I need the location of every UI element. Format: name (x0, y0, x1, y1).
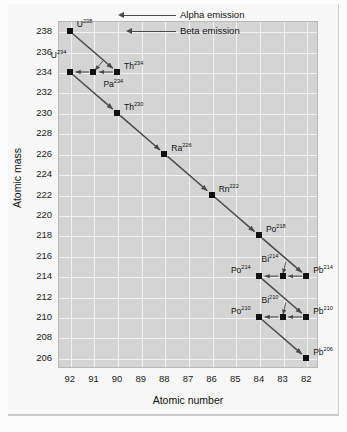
point-label-po210: Po210 (231, 306, 251, 315)
transition-alpha-po210-to-pb206 (262, 320, 302, 354)
y-tick-212: 212 (36, 292, 52, 302)
data-point-po210 (256, 314, 262, 320)
x-tick-89: 89 (135, 374, 146, 384)
point-label-ra226: Ra226 (171, 143, 191, 152)
y-tick-228: 228 (36, 129, 52, 139)
legend-item-alpha: Alpha emission (118, 8, 258, 24)
data-point-u234 (67, 69, 73, 75)
transition-alpha-ra226-to-rn222 (168, 156, 208, 190)
data-point-pb214 (303, 273, 309, 279)
data-point-po214 (256, 273, 262, 279)
y-tick-230: 230 (36, 108, 52, 118)
y-tick-216: 216 (36, 251, 52, 261)
point-label-bi214: Bi214 (262, 254, 279, 263)
x-tick-83: 83 (277, 374, 288, 384)
x-tick-84: 84 (254, 374, 265, 384)
x-tick-82: 82 (301, 374, 312, 384)
x-tick-85: 85 (230, 374, 241, 384)
y-tick-224: 224 (36, 169, 52, 179)
legend: Alpha emission Beta emission (118, 8, 258, 40)
y-tick-220: 220 (36, 210, 52, 220)
y-tick-210: 210 (36, 312, 52, 322)
x-tick-92: 92 (65, 374, 76, 384)
y-tick-218: 218 (36, 231, 52, 241)
point-label-u234: U234 (51, 50, 66, 59)
y-tick-206: 206 (36, 353, 52, 363)
point-label-po214: Po214 (231, 265, 251, 274)
point-label-th234: Th234 (124, 61, 143, 70)
y-tick-214: 214 (36, 271, 52, 281)
leader-line-bi210 (283, 303, 286, 315)
y-tick-236: 236 (36, 47, 52, 57)
legend-label-alpha: Alpha emission (180, 9, 244, 20)
point-label-po218: Po218 (266, 224, 286, 233)
y-tick-226: 226 (36, 149, 52, 159)
data-point-th234 (114, 69, 120, 75)
legend-label-beta: Beta emission (180, 25, 240, 36)
point-label-pb214: Pb214 (313, 265, 333, 274)
y-tick-222: 222 (36, 190, 52, 200)
x-axis-title: Atomic number (58, 394, 318, 406)
y-axis-title: Atomic mass (11, 113, 23, 243)
data-point-po218 (256, 232, 262, 238)
data-point-pb210 (303, 314, 309, 320)
transition-alpha-th230-to-ra226 (120, 116, 160, 150)
point-label-rn222: Rn222 (219, 184, 239, 193)
point-label-pa234: Pa234 (103, 79, 123, 88)
data-point-bi210 (280, 314, 286, 320)
beta-arrow-line (130, 31, 176, 32)
decay-series-figure: 2382362342322302282262242222202182162142… (0, 0, 347, 432)
x-tick-87: 87 (183, 374, 194, 384)
y-axis-tick-labels: 2382362342322302282262242222202182162142… (0, 21, 52, 368)
x-tick-88: 88 (159, 374, 170, 384)
x-tick-91: 91 (88, 374, 99, 384)
x-tick-90: 90 (112, 374, 123, 384)
data-point-ra226 (161, 151, 167, 157)
alpha-arrow-head (118, 12, 124, 18)
legend-item-beta: Beta emission (118, 24, 258, 40)
x-tick-86: 86 (206, 374, 217, 384)
data-point-pb206 (303, 355, 309, 361)
plot-area-wrapper: U238Th234Pa234U234Th230Ra226Rn222Po218Pb… (58, 21, 318, 368)
data-point-bi214 (280, 273, 286, 279)
y-tick-232: 232 (36, 88, 52, 98)
data-point-pa234 (90, 69, 96, 75)
point-label-pb210: Pb210 (313, 306, 333, 315)
y-tick-208: 208 (36, 333, 52, 343)
y-tick-234: 234 (36, 67, 52, 77)
transition-alpha-u238-to-th234 (73, 34, 113, 68)
data-point-rn222 (209, 192, 215, 198)
x-axis-tick-labels: 9291908988878685848382 (58, 374, 318, 388)
alpha-arrow-line (122, 15, 176, 16)
point-label-th230: Th230 (124, 102, 143, 111)
y-tick-238: 238 (36, 26, 52, 36)
point-label-u238: U238 (77, 19, 92, 28)
data-point-u238 (67, 28, 73, 34)
point-label-pb206: Pb206 (313, 347, 333, 356)
beta-arrow-head (126, 28, 132, 34)
leader-line-bi214 (283, 262, 286, 274)
data-point-th230 (114, 110, 120, 116)
transition-alpha-rn222-to-po218 (215, 197, 255, 231)
point-label-bi210: Bi210 (262, 295, 279, 304)
